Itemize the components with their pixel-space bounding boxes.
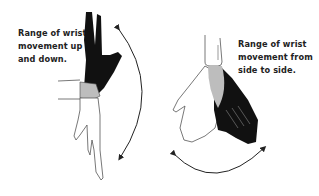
wrist-range-diagram (0, 0, 319, 196)
arc-arrow-horizontal-icon (174, 148, 264, 173)
hand-down-outline-icon (74, 98, 103, 180)
left-hand-illustration (58, 12, 142, 180)
arc-arrow-vertical-icon (118, 28, 142, 158)
right-hand-illustration (173, 35, 264, 173)
